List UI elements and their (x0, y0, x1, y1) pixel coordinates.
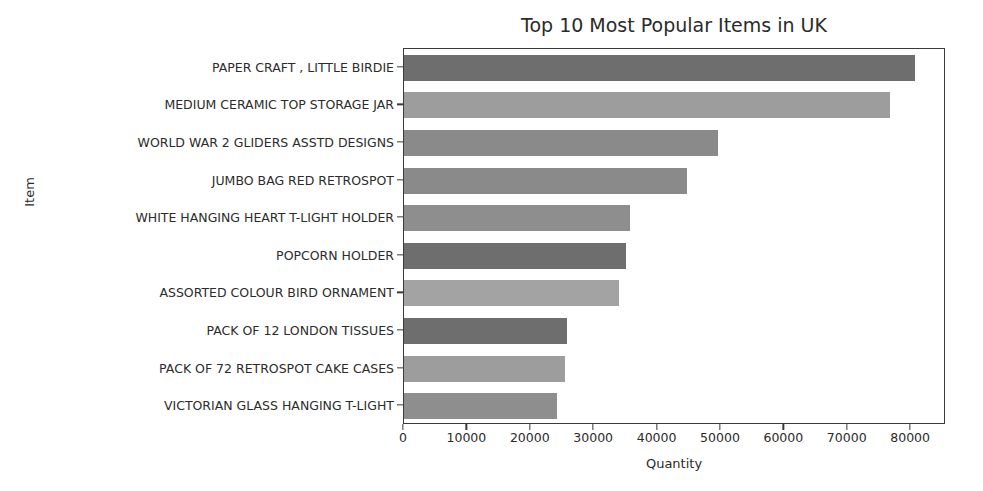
bar-fill (404, 243, 626, 269)
x-axis-tick-label: 60000 (763, 430, 803, 445)
chart-figure: Top 10 Most Popular Items in UK Item Qua… (0, 0, 983, 491)
y-axis-tick-mark (397, 66, 403, 67)
bar (404, 280, 619, 306)
y-axis-tick-label: MEDIUM CERAMIC TOP STORAGE JAR (164, 97, 394, 112)
bar-fill (404, 205, 630, 231)
x-axis-tick-label: 80000 (890, 430, 930, 445)
bar-fill (404, 168, 687, 194)
y-axis-tick-mark (397, 367, 403, 368)
y-axis-tick-label: PAPER CRAFT , LITTLE BIRDIE (212, 59, 394, 74)
bar (404, 205, 630, 231)
x-axis-tick-label: 0 (399, 430, 407, 445)
bar (404, 318, 567, 344)
bar (404, 92, 890, 118)
bar (404, 130, 718, 156)
bar (404, 55, 915, 81)
y-axis-tick-mark (397, 329, 403, 330)
y-axis-label: Item (22, 152, 37, 232)
y-axis-tick-label: WORLD WAR 2 GLIDERS ASSTD DESIGNS (138, 135, 394, 150)
y-axis-tick-label: VICTORIAN GLASS HANGING T-LIGHT (164, 398, 394, 413)
y-axis-tick-mark (397, 254, 403, 255)
y-axis-tick-mark (397, 292, 403, 293)
bar (404, 168, 687, 194)
x-axis-tick-label: 30000 (573, 430, 613, 445)
chart-title: Top 10 Most Popular Items in UK (403, 14, 945, 36)
y-axis-tick-label: ASSORTED COLOUR BIRD ORNAMENT (159, 285, 394, 300)
y-axis-tick-label: WHITE HANGING HEART T-LIGHT HOLDER (135, 210, 394, 225)
bar-fill (404, 92, 890, 118)
x-axis-tick-label: 50000 (700, 430, 740, 445)
x-axis-tick-label: 70000 (827, 430, 867, 445)
x-axis-tick-label: 40000 (637, 430, 677, 445)
x-axis-tick-label: 20000 (510, 430, 550, 445)
y-axis-tick-label: PACK OF 72 RETROSPOT CAKE CASES (159, 360, 394, 375)
bar-fill (404, 318, 567, 344)
bar-fill (404, 280, 619, 306)
x-axis-tick-label: 10000 (447, 430, 487, 445)
y-axis-tick-label: JUMBO BAG RED RETROSPOT (212, 172, 394, 187)
y-axis-tick-mark (397, 217, 403, 218)
x-axis-label: Quantity (403, 456, 945, 471)
bar-fill (404, 356, 565, 382)
y-axis-tick-label: POPCORN HOLDER (276, 247, 394, 262)
y-axis-tick-mark (397, 104, 403, 105)
bar-fill (404, 55, 915, 81)
y-axis-tick-mark (397, 141, 403, 142)
bar (404, 356, 565, 382)
bar (404, 243, 626, 269)
bar (404, 393, 557, 419)
y-axis-tick-label: PACK OF 12 LONDON TISSUES (206, 323, 394, 338)
plot-area (403, 48, 945, 424)
y-axis-tick-mark (397, 405, 403, 406)
bar-fill (404, 130, 718, 156)
bar-fill (404, 393, 557, 419)
y-axis-tick-mark (397, 179, 403, 180)
